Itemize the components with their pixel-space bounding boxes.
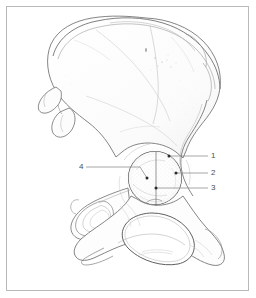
anterior-inferior-iliac-spine [52, 108, 75, 137]
marker-2 [175, 172, 178, 175]
hip-bone-illustration [0, 0, 256, 298]
label-4: 4 [79, 163, 83, 171]
bone-outline-group [38, 16, 224, 265]
label-3: 3 [211, 184, 215, 192]
pubic-tubercle [71, 200, 79, 214]
ilium [48, 16, 221, 158]
anterior-superior-iliac-spine [38, 87, 61, 113]
figure-root: 1 2 3 4 [0, 0, 256, 298]
marker-3 [155, 187, 158, 190]
marker-4 [146, 177, 149, 180]
marker-1 [168, 155, 171, 158]
label-1: 1 [211, 152, 215, 160]
label-2: 2 [211, 169, 215, 177]
